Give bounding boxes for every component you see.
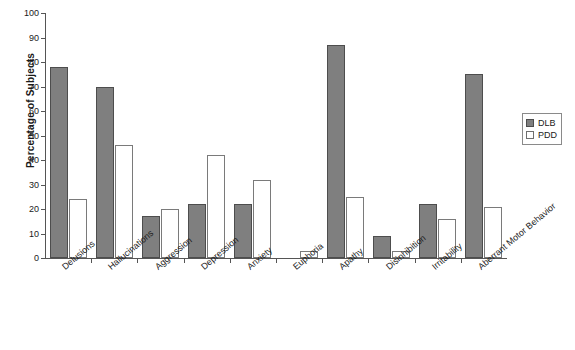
bar-dlb-anxiety xyxy=(234,204,252,258)
white-square-icon xyxy=(526,131,534,139)
y-tick-mark xyxy=(41,160,45,161)
y-tick-label: 60 xyxy=(5,107,39,116)
y-tick-label: 90 xyxy=(5,33,39,42)
y-tick-mark xyxy=(41,209,45,210)
bar-dlb-apathy xyxy=(327,45,345,258)
legend-item-pdd: PDD xyxy=(526,129,557,141)
y-tick-label: 10 xyxy=(5,229,39,238)
bar-chart: Percentage of Subjects 01020304050607080… xyxy=(0,0,575,350)
y-tick-label: 70 xyxy=(5,82,39,91)
x-tick-mark xyxy=(415,259,416,263)
bar-pdd-hallucinations xyxy=(115,145,133,258)
x-tick-mark xyxy=(461,259,462,263)
y-tick-label: 80 xyxy=(5,58,39,67)
bar-dlb-depression xyxy=(188,204,206,258)
legend-label: PDD xyxy=(538,131,557,140)
x-tick-mark xyxy=(230,259,231,263)
y-tick-mark xyxy=(41,136,45,137)
y-tick-label: 0 xyxy=(5,254,39,263)
y-tick-label: 40 xyxy=(5,156,39,165)
y-tick-mark xyxy=(41,185,45,186)
x-tick-mark xyxy=(184,259,185,263)
y-tick-label: 30 xyxy=(5,180,39,189)
y-tick-mark xyxy=(41,234,45,235)
y-tick-mark xyxy=(41,258,45,259)
legend-label: DLB xyxy=(538,119,556,128)
filled-gray-square-icon xyxy=(526,119,534,127)
x-tick-mark xyxy=(322,259,323,263)
x-tick-mark xyxy=(368,259,369,263)
x-tick-mark xyxy=(91,259,92,263)
y-tick-label: 20 xyxy=(5,205,39,214)
y-tick-label: 100 xyxy=(5,9,39,18)
plot-area: 0102030405060708090100 xyxy=(45,13,507,258)
chart-legend: DLBPDD xyxy=(522,113,562,145)
y-tick-mark xyxy=(41,13,45,14)
x-tick-mark xyxy=(276,259,277,263)
legend-item-dlb: DLB xyxy=(526,117,557,129)
y-tick-mark xyxy=(41,38,45,39)
y-axis-line xyxy=(45,13,46,259)
y-tick-mark xyxy=(41,111,45,112)
bar-dlb-delusions xyxy=(50,67,68,258)
y-tick-mark xyxy=(41,87,45,88)
y-tick-mark xyxy=(41,62,45,63)
x-tick-mark xyxy=(137,259,138,263)
bar-dlb-irritability xyxy=(419,204,437,258)
y-tick-label: 50 xyxy=(5,131,39,140)
bar-dlb-hallucinations xyxy=(96,87,114,259)
bar-dlb-disinhibition xyxy=(373,236,391,258)
bar-dlb-aberrant-motor-behavior xyxy=(465,74,483,258)
